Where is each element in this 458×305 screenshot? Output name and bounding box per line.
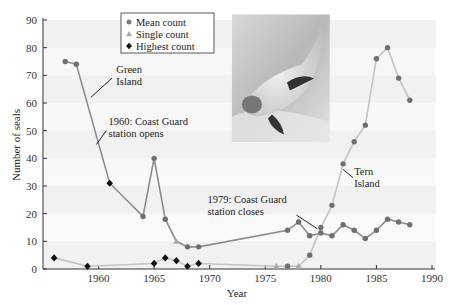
mean-count-marker: [318, 230, 323, 235]
x-tick-label: 1990: [421, 272, 444, 284]
mean-count-marker: [329, 233, 334, 238]
y-tick-label: 30: [26, 180, 38, 192]
mean-count-marker: [296, 219, 301, 224]
x-tick-label: 1960: [88, 272, 111, 284]
x-tick-label: 1970: [199, 272, 222, 284]
legend-circle-icon: [127, 20, 132, 25]
y-tick-label: 10: [26, 235, 38, 247]
mean-count-marker: [374, 228, 379, 233]
mean-count-marker: [140, 214, 145, 219]
mean-count-marker: [63, 59, 68, 64]
seal-photo: [232, 14, 330, 141]
mean-count-marker: [318, 225, 323, 230]
x-tick-label: 1975: [254, 272, 277, 284]
x-tick-label: 1965: [143, 272, 166, 284]
mean-count-marker: [352, 228, 357, 233]
mean-count-marker: [396, 75, 401, 80]
mean-count-marker: [385, 217, 390, 222]
mean-count-marker: [374, 56, 379, 61]
y-tick-label: 60: [26, 97, 38, 109]
seal-count-chart: 0102030405060708090196019651970197519801…: [0, 0, 458, 305]
mean-count-marker: [196, 244, 201, 249]
mean-count-marker: [363, 122, 368, 127]
y-tick-label: 0: [32, 263, 38, 275]
legend: Mean countSingle countHighest count: [121, 13, 214, 53]
seal-head: [242, 95, 262, 113]
mean-count-marker: [163, 217, 168, 222]
annotation-text: station closes: [207, 206, 263, 217]
mean-count-marker: [340, 161, 345, 166]
mean-count-marker: [185, 244, 190, 249]
annotation-text: 1979: Coast Guard: [207, 194, 287, 205]
legend-label: Mean count: [136, 17, 186, 28]
mean-count-marker: [151, 156, 156, 161]
legend-label: Single count: [136, 29, 189, 40]
annotation-text: Island: [354, 178, 380, 189]
y-tick-label: 90: [26, 14, 38, 26]
x-tick-label: 1980: [310, 272, 333, 284]
mean-count-marker: [340, 222, 345, 227]
annotation-text: Tern: [354, 166, 374, 177]
mean-count-marker: [285, 264, 290, 269]
mean-count-marker: [385, 45, 390, 50]
mean-count-marker: [74, 62, 79, 67]
annotation-text: 1960: Coast Guard: [109, 116, 189, 127]
y-tick-label: 40: [26, 152, 38, 164]
mean-count-marker: [396, 219, 401, 224]
y-tick-label: 20: [26, 208, 38, 220]
mean-count-marker: [307, 233, 312, 238]
mean-count-marker: [307, 252, 312, 257]
mean-count-marker: [407, 222, 412, 227]
mean-count-marker: [363, 236, 368, 241]
x-axis-title: Year: [227, 287, 248, 299]
mean-count-marker: [329, 203, 334, 208]
annotation-text: Island: [116, 76, 142, 87]
annotation-text: station opens: [109, 128, 164, 139]
mean-count-marker: [352, 139, 357, 144]
annotation-text: Green: [116, 64, 142, 75]
y-tick-label: 50: [26, 125, 38, 137]
mean-count-marker: [285, 228, 290, 233]
y-tick-label: 70: [26, 69, 38, 81]
y-axis-title: Number of seals: [10, 109, 22, 181]
x-tick-label: 1985: [365, 272, 388, 284]
legend-label: Highest count: [136, 41, 195, 52]
y-tick-label: 80: [26, 42, 38, 54]
mean-count-marker: [407, 98, 412, 103]
